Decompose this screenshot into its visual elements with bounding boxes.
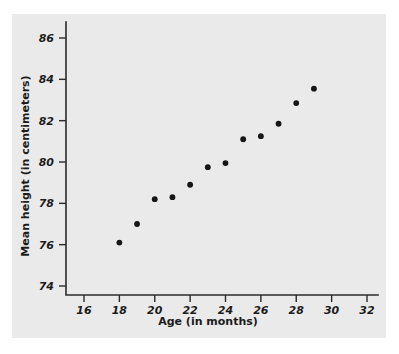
x-tick-label: 30 <box>324 304 340 317</box>
data-point <box>223 160 229 166</box>
data-point <box>205 164 211 170</box>
data-point <box>152 196 158 202</box>
y-tick-label: 78 <box>39 197 55 210</box>
y-axis-title: Mean height (in centimeters) <box>19 75 32 256</box>
data-point <box>170 194 176 200</box>
figure-card: 74767880828486 161820222426283032 Age (i… <box>12 14 386 338</box>
y-tick-label: 82 <box>39 115 55 128</box>
y-tick-label: 74 <box>39 280 54 293</box>
y-tick-label: 80 <box>39 156 55 169</box>
scatter-plot: 74767880828486 161820222426283032 Age (i… <box>12 14 386 338</box>
x-tick-label: 32 <box>359 304 375 317</box>
data-point <box>258 133 264 139</box>
data-point <box>187 182 193 188</box>
data-point <box>116 240 122 246</box>
data-point <box>276 121 282 127</box>
x-tick-label: 18 <box>112 304 128 317</box>
x-tick-label: 28 <box>289 304 305 317</box>
data-point <box>293 100 299 106</box>
y-tick-label: 84 <box>39 73 54 86</box>
x-axis-title: Age (in months) <box>158 315 258 328</box>
data-point <box>240 136 246 142</box>
data-point <box>311 86 317 92</box>
x-tick-label: 16 <box>76 304 92 317</box>
y-tick-label: 76 <box>39 239 55 252</box>
data-point <box>134 221 140 227</box>
y-tick-label: 86 <box>39 32 55 45</box>
plot-background <box>12 14 386 338</box>
